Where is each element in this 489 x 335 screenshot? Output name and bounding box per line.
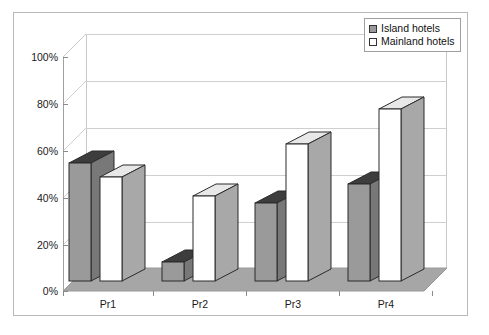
chart-legend: Island hotels Mainland hotels	[364, 18, 461, 52]
legend-label-island: Island hotels	[381, 22, 440, 35]
xtick-mark-4	[432, 291, 433, 296]
xtick-label-pr3: Pr3	[253, 298, 333, 310]
xtick-mark-3	[339, 291, 340, 296]
gridline-80	[86, 81, 447, 82]
xtick-label-pr2: Pr2	[160, 298, 240, 310]
legend-swatch-island-icon	[369, 25, 377, 33]
bar-pr4-mainland	[379, 97, 425, 292]
bar-pr1-mainland	[100, 165, 146, 292]
ytick-mark-80	[63, 104, 68, 105]
legend-item-mainland: Mainland hotels	[369, 35, 455, 48]
ytick-mark-40	[63, 198, 68, 199]
bar-pr3-mainland	[286, 132, 332, 292]
ytick-label-80: 80%	[16, 99, 58, 109]
ytick-mark-20	[63, 245, 68, 246]
xtick-label-pr1: Pr1	[68, 298, 148, 310]
ytick-label-20: 20%	[16, 240, 58, 250]
ytick-label-40: 40%	[16, 193, 58, 203]
chart-screenshot: 100% 80% 60% 40% 20% 0%	[0, 0, 489, 335]
legend-swatch-mainland-icon	[369, 38, 377, 46]
xtick-mark-2	[246, 291, 247, 296]
xtick-mark-1	[153, 291, 154, 296]
ytick-label-60: 60%	[16, 146, 58, 156]
legend-label-mainland: Mainland hotels	[381, 35, 455, 48]
ytick-mark-100	[63, 57, 68, 58]
bar-pr2-mainland	[193, 184, 239, 292]
value-axis-line	[63, 57, 64, 291]
ytick-label-100: 100%	[16, 52, 58, 62]
ytick-mark-60	[63, 151, 68, 152]
ytick-label-0: 0%	[16, 286, 58, 296]
legend-item-island: Island hotels	[369, 22, 455, 35]
xtick-mark-0	[63, 291, 64, 296]
xtick-label-pr4: Pr4	[346, 298, 426, 310]
